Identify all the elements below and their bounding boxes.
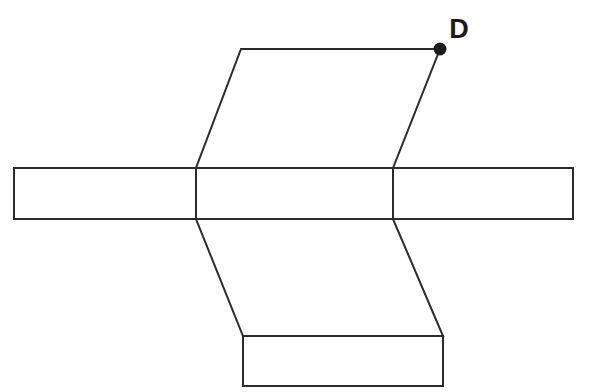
face-bottom-flap bbox=[243, 336, 443, 386]
face-band-center bbox=[196, 168, 393, 219]
diagram-canvas: D bbox=[0, 0, 591, 392]
face-upper-flap bbox=[196, 49, 440, 168]
face-lower-flap bbox=[196, 219, 443, 336]
face-band-right bbox=[393, 168, 573, 219]
face-band-left bbox=[14, 168, 196, 219]
vertex-label-d: D bbox=[449, 14, 469, 44]
net-diagram-figure: D bbox=[0, 0, 591, 392]
vertex-dot-d bbox=[434, 43, 447, 56]
